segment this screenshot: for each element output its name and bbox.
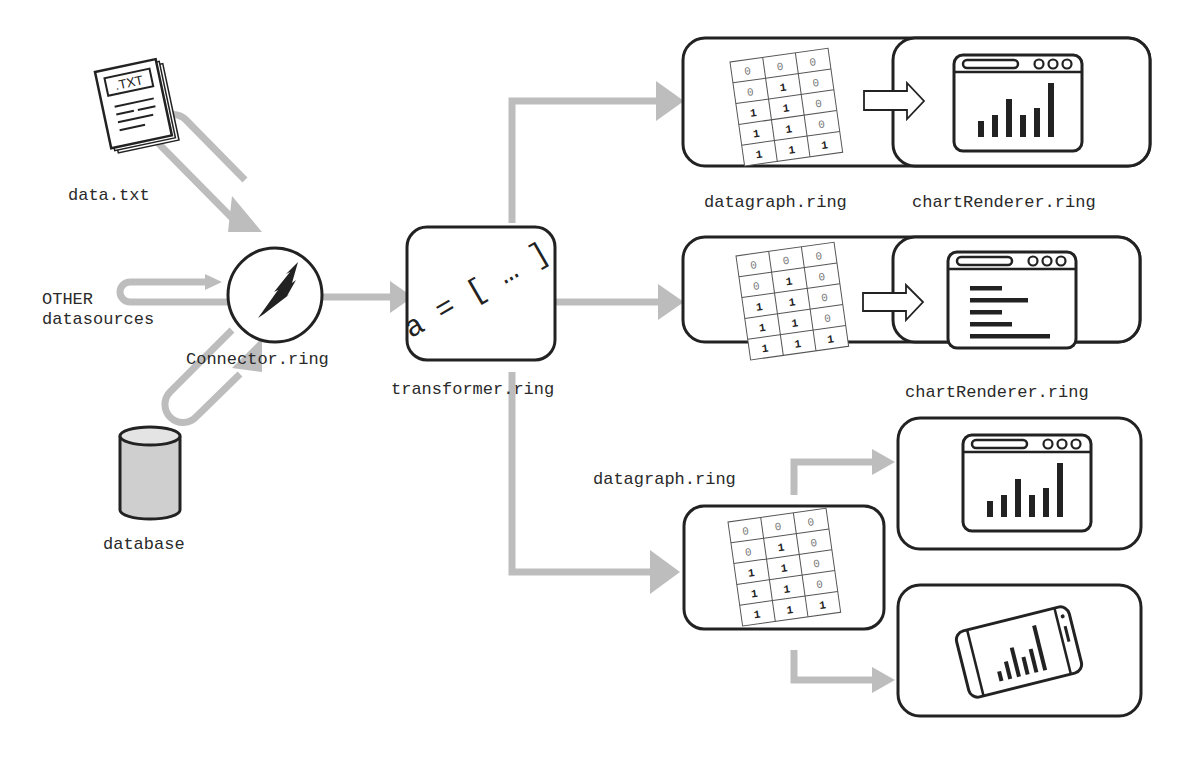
arrow-database-to-connector — [165, 330, 240, 423]
pipeline1-datagraph-label: datagraph.ring — [704, 193, 847, 213]
other-datasources-label-2: datasources — [42, 310, 154, 330]
pipeline-2 — [683, 237, 1140, 360]
data-flow-diagram: 000 010 110 110 111 — [0, 0, 1189, 758]
pipeline-3 — [684, 418, 1141, 716]
database-cylinder-icon — [120, 427, 180, 519]
transformer-label: transformer.ring — [391, 380, 554, 400]
connector-label: Connector.ring — [186, 350, 329, 370]
data-txt-label: data.txt — [68, 186, 150, 206]
arrow-transformer-to-pipeline1 — [512, 101, 660, 223]
database-label: database — [103, 535, 185, 555]
pipeline2-renderer-label: chartRenderer.ring — [905, 383, 1089, 403]
txt-file-icon: .TXT — [95, 58, 179, 154]
pipeline1-renderer-label: chartRenderer.ring — [912, 193, 1096, 213]
other-datasources-label-1: OTHER — [42, 290, 93, 310]
arrow-datagraph-to-mobile — [794, 650, 875, 680]
connector-node — [228, 248, 322, 342]
pipeline3-datagraph-label: datagraph.ring — [593, 470, 736, 490]
arrow-datagraph-to-desktop — [794, 462, 875, 495]
pipeline-1 — [683, 38, 1150, 166]
